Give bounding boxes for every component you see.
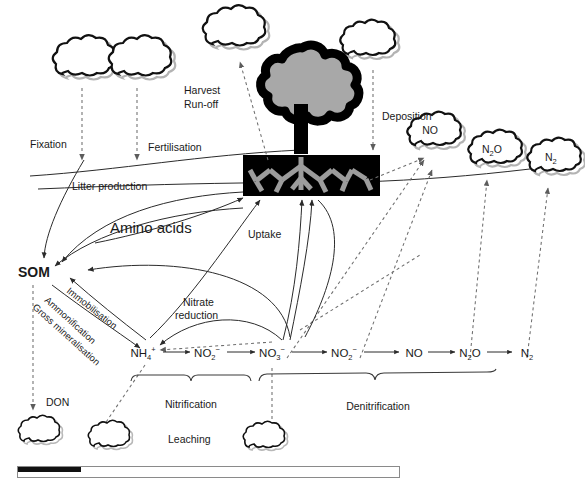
harvest-label-line2: Run-off [184, 98, 218, 110]
diagram-canvas: NO N2O N2 [0, 0, 585, 479]
fixation-label: Fixation [30, 138, 67, 150]
bottom-bar-region [0, 466, 585, 479]
scrollbar-svg[interactable] [0, 466, 585, 479]
harvest-label-line1: Harvest [184, 84, 220, 96]
litter-production-label: Litter production [72, 180, 147, 192]
leaching-label: Leaching [168, 433, 211, 445]
tree-trunk [294, 104, 308, 154]
nitrogen-cycle-figure: NO N2O N2 [0, 0, 585, 479]
uptake-label: Uptake [248, 228, 281, 240]
scrollbar-thumb[interactable] [18, 467, 81, 472]
nitrification-label: Nitrification [165, 398, 217, 410]
fertilisation-label: Fertilisation [148, 141, 202, 153]
don-label: DON [46, 396, 69, 408]
nitrate-reduction-label-line1: Nitrate [183, 296, 214, 308]
amino-acids-label: Amino acids [110, 219, 192, 236]
som-pool-label: SOM [18, 264, 50, 280]
nitrate-reduction-label-line2: reduction [175, 309, 218, 321]
no-cloud-label: NO [422, 124, 438, 136]
denitrification-label: Denitrification [346, 400, 410, 412]
deposition-label: Deposition [382, 110, 432, 122]
species-no: NO [405, 347, 422, 359]
soil-block [243, 155, 380, 196]
